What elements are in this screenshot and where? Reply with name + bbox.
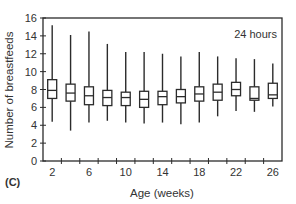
y-tick-label: 4 <box>31 119 37 131</box>
y-tick-label: 6 <box>31 101 37 113</box>
x-tick-label: 26 <box>267 166 279 178</box>
box-week-10 <box>121 52 130 123</box>
y-tick-label: 2 <box>31 137 37 149</box>
y-tick-label: 14 <box>25 30 37 42</box>
box-plot-chart: 0246810121416 261014182226 24 hours Age … <box>0 0 296 204</box>
x-tick-label: 22 <box>230 166 242 178</box>
x-axis-label: Age (weeks) <box>130 187 194 199</box>
iqr-box <box>268 83 277 98</box>
box-week-18 <box>195 52 204 123</box>
box-week-20 <box>213 56 222 116</box>
x-tick-label: 18 <box>193 166 205 178</box>
box-week-26 <box>268 64 277 107</box>
box-week-6 <box>84 31 93 122</box>
x-tick-label: 2 <box>49 166 55 178</box>
iqr-box <box>121 92 130 105</box>
x-tick-label: 6 <box>86 166 92 178</box>
box-week-24 <box>250 59 259 112</box>
box-week-2 <box>48 25 57 122</box>
box-week-4 <box>66 35 75 131</box>
chart-annotation: 24 hours <box>234 28 277 40</box>
box-week-16 <box>176 56 185 124</box>
box-week-14 <box>158 54 167 123</box>
y-axis-label: Number of breastfeeds <box>3 31 15 148</box>
x-tick-label: 14 <box>156 166 168 178</box>
y-tick-label: 8 <box>31 84 37 96</box>
box-week-8 <box>103 44 112 121</box>
box-week-22 <box>232 58 241 111</box>
box-week-12 <box>140 52 149 124</box>
y-tick-label: 0 <box>31 155 37 167</box>
y-tick-label: 16 <box>25 12 37 24</box>
box-series <box>48 25 278 130</box>
y-tick-label: 10 <box>25 66 37 78</box>
iqr-box <box>48 80 57 99</box>
iqr-box <box>158 91 167 104</box>
y-tick-label: 12 <box>25 48 37 60</box>
panel-label: (C) <box>5 176 21 188</box>
x-tick-label: 10 <box>120 166 132 178</box>
